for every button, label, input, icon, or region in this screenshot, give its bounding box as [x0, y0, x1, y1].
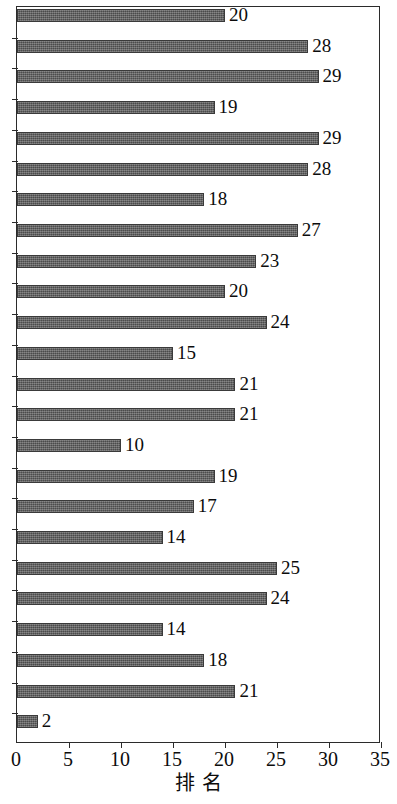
plot-area: 2028291929281827232024152121101917142524…	[16, 6, 380, 743]
bar-value-label: 21	[235, 373, 258, 394]
bar-value-label: 21	[235, 403, 258, 424]
y-axis-tick	[12, 406, 18, 407]
bar-value-label: 25	[277, 557, 300, 578]
bar	[17, 9, 225, 22]
bar-row: 29	[17, 68, 379, 99]
bar	[17, 500, 194, 513]
bar-value-label: 17	[194, 495, 217, 516]
bar	[17, 224, 298, 237]
bar	[17, 562, 277, 575]
bar	[17, 40, 308, 53]
y-axis-tick	[12, 345, 18, 346]
bar-value-label: 24	[267, 311, 290, 332]
bar-value-label: 24	[267, 587, 290, 608]
y-axis-tick	[12, 621, 18, 622]
bar	[17, 531, 163, 544]
bar-value-label: 19	[215, 465, 238, 486]
y-axis-tick	[12, 222, 18, 223]
bar-row: 19	[17, 99, 379, 130]
bar-value-label: 15	[173, 342, 196, 363]
bar-value-label: 18	[204, 649, 227, 670]
y-axis-tick	[12, 130, 18, 131]
bar-row: 21	[17, 683, 379, 714]
bar	[17, 316, 267, 329]
bar	[17, 623, 163, 636]
bar-row: 29	[17, 130, 379, 161]
y-axis-tick	[12, 38, 18, 39]
y-axis-tick	[12, 590, 18, 591]
bar-row: 2	[17, 713, 379, 744]
bar-value-label: 2	[38, 710, 52, 731]
bar-row: 25	[17, 560, 379, 591]
y-axis-tick	[12, 498, 18, 499]
x-axis-tick-label: 30	[318, 748, 338, 770]
x-axis-tick-label: 20	[214, 748, 234, 770]
bar-row: 21	[17, 376, 379, 407]
bar-value-label: 29	[319, 127, 342, 148]
bar-row: 20	[17, 7, 379, 38]
bar-row: 28	[17, 38, 379, 69]
x-axis-tick-label: 25	[266, 748, 286, 770]
bar-value-label: 19	[215, 96, 238, 117]
x-axis-title: 排 名	[0, 772, 397, 794]
y-axis-tick	[12, 161, 18, 162]
bar-row: 18	[17, 652, 379, 683]
x-axis-tick-label: 35	[370, 748, 390, 770]
bar-value-label: 28	[308, 158, 331, 179]
bar-row: 18	[17, 191, 379, 222]
bar-row: 17	[17, 498, 379, 529]
y-axis-tick	[12, 560, 18, 561]
bar	[17, 132, 319, 145]
bar	[17, 378, 235, 391]
bar-row: 14	[17, 529, 379, 560]
bar-chart: 2028291929281827232024152121101917142524…	[0, 0, 397, 804]
bar-value-label: 23	[256, 250, 279, 271]
bar-row: 19	[17, 468, 379, 499]
bar-value-label: 29	[319, 65, 342, 86]
bar-row: 24	[17, 590, 379, 621]
y-axis-tick	[12, 283, 18, 284]
y-axis-tick	[12, 314, 18, 315]
bar-value-label: 14	[163, 526, 186, 547]
bar-row: 24	[17, 314, 379, 345]
bar-value-label: 21	[235, 680, 258, 701]
bar-row: 23	[17, 253, 379, 284]
y-axis-tick	[12, 683, 18, 684]
y-axis-tick	[12, 253, 18, 254]
bar	[17, 470, 215, 483]
bar-row: 27	[17, 222, 379, 253]
bar	[17, 70, 319, 83]
x-axis-tick-label: 10	[110, 748, 130, 770]
bar	[17, 163, 308, 176]
y-axis-tick	[12, 99, 18, 100]
bar-row: 28	[17, 161, 379, 192]
bar	[17, 408, 235, 421]
y-axis-tick	[12, 437, 18, 438]
x-axis-tick-label: 5	[63, 748, 73, 770]
y-axis-tick	[12, 468, 18, 469]
bar-value-label: 18	[204, 188, 227, 209]
x-axis-tick-label: 15	[162, 748, 182, 770]
y-axis-tick	[12, 652, 18, 653]
bar	[17, 255, 256, 268]
bar	[17, 592, 267, 605]
bar-value-label: 10	[121, 434, 144, 455]
bar-row: 15	[17, 345, 379, 376]
bar-row: 14	[17, 621, 379, 652]
bar	[17, 101, 215, 114]
x-axis-tick-label: 0	[11, 748, 21, 770]
y-axis-tick	[12, 68, 18, 69]
y-axis-tick	[12, 376, 18, 377]
y-axis-tick	[12, 191, 18, 192]
bar	[17, 285, 225, 298]
bar-value-label: 14	[163, 618, 186, 639]
bar	[17, 193, 204, 206]
y-axis-tick	[12, 529, 18, 530]
bar	[17, 439, 121, 452]
bar-value-label: 20	[225, 280, 248, 301]
bar-row: 20	[17, 283, 379, 314]
bar	[17, 347, 173, 360]
bar	[17, 715, 38, 728]
y-axis-tick	[12, 713, 18, 714]
bar	[17, 654, 204, 667]
